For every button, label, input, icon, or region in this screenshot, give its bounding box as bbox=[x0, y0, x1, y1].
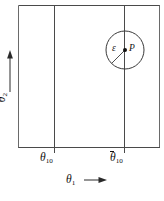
figure-canvas: θ10 θ10 θ1 θ2 ε P bbox=[0, 0, 164, 201]
x-axis-label: θ1 bbox=[66, 174, 75, 187]
point-p-label: P bbox=[129, 44, 135, 54]
epsilon-label: ε bbox=[112, 44, 116, 54]
y-axis-label-subscript: 2 bbox=[1, 93, 9, 97]
point-p-marker bbox=[123, 48, 127, 52]
y-axis-label-symbol: θ bbox=[0, 97, 7, 103]
tick-label-theta10-upper-subscript: 10 bbox=[116, 157, 123, 165]
x-axis-arrow bbox=[84, 177, 107, 183]
x-axis-label-subscript: 1 bbox=[72, 179, 76, 187]
tick-label-theta10-upper-symbol: θ bbox=[110, 151, 116, 163]
plot-frame bbox=[19, 6, 161, 149]
y-axis-arrow-head bbox=[7, 50, 13, 59]
figure-vector-graphics bbox=[0, 0, 164, 201]
region-boundary-lines bbox=[55, 6, 125, 154]
tick-label-theta10-lower: θ10 bbox=[40, 152, 53, 165]
y-axis-arrow bbox=[7, 50, 13, 92]
x-axis-arrow-head bbox=[99, 177, 108, 183]
y-axis-label: θ2 bbox=[0, 93, 9, 102]
tick-label-theta10-upper-symbol-overbar: θ bbox=[110, 151, 116, 164]
tick-label-theta10-lower-subscript: 10 bbox=[46, 157, 53, 165]
tick-label-theta10-upper: θ10 bbox=[110, 151, 123, 165]
